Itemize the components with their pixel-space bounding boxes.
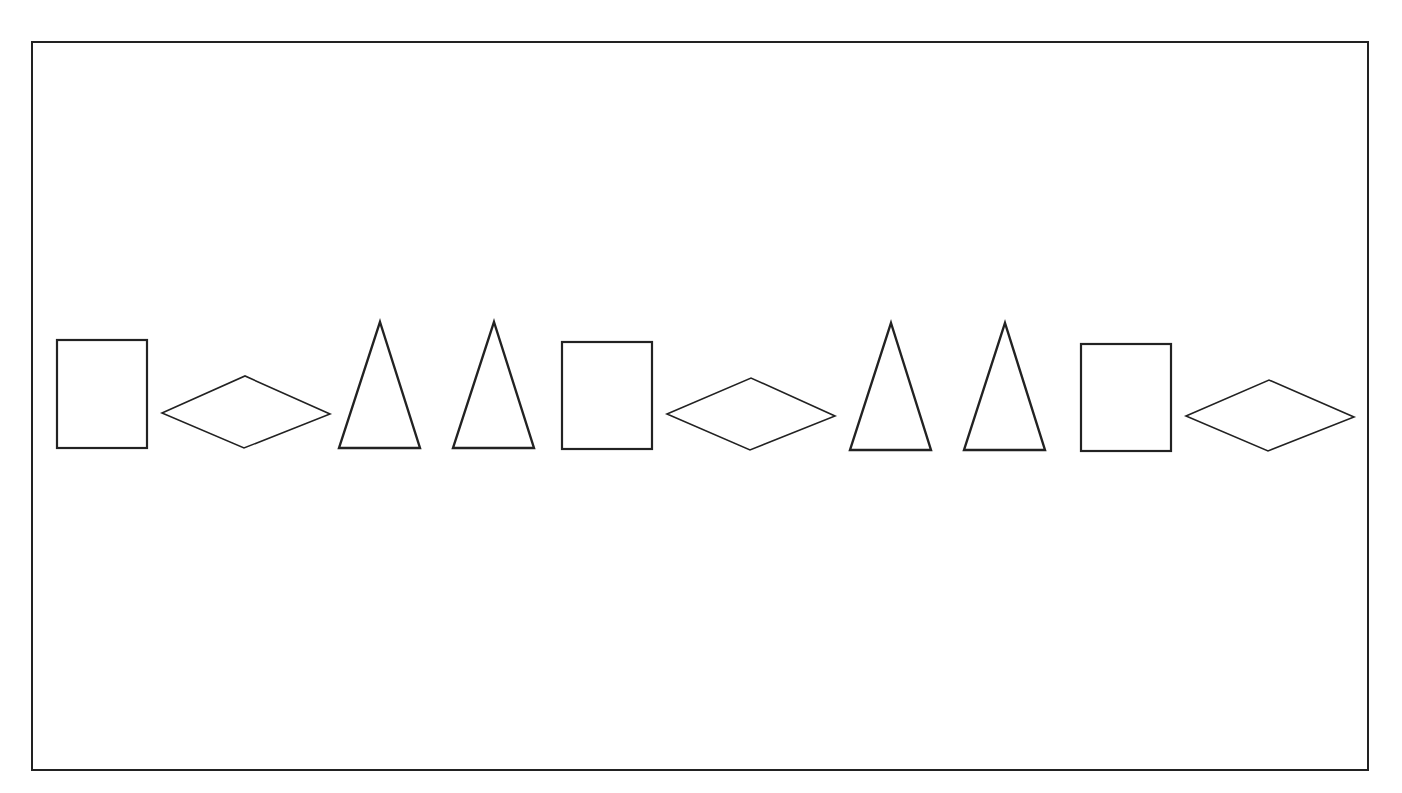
rectangle-shape-1: [57, 340, 147, 448]
diamond-shape-6: [667, 378, 835, 450]
shape-sequence: [0, 0, 1402, 793]
triangle-shape-8: [964, 323, 1045, 450]
diamond-shape-2: [162, 376, 330, 448]
triangle-shape-3: [339, 322, 420, 448]
figure-caption-clipped: [0, 780, 1402, 793]
diamond-shape-10: [1186, 380, 1354, 451]
triangle-shape-7: [850, 323, 931, 450]
rectangle-shape-9: [1081, 344, 1171, 451]
triangle-shape-4: [453, 322, 534, 448]
rectangle-shape-5: [562, 342, 652, 449]
